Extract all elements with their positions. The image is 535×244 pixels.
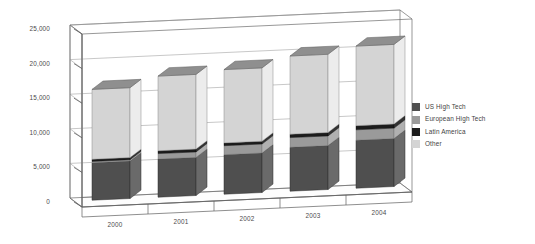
legend-label: European High Tech xyxy=(425,116,486,122)
legend-swatch-icon xyxy=(412,140,420,148)
x-tick-2002: 2002 xyxy=(224,216,270,222)
legend-item-us-high-tech[interactable]: US High Tech xyxy=(412,101,532,113)
x-tick-2003: 2003 xyxy=(290,213,336,219)
legend-swatch-icon xyxy=(412,128,420,136)
legend-swatch-icon xyxy=(412,116,420,124)
legend-label: Latin America xyxy=(425,129,466,135)
legend-label: Other xyxy=(425,141,442,147)
x-tick-2004: 2004 xyxy=(356,210,402,216)
chart-legend: US High Tech European High Tech Latin Am… xyxy=(412,101,532,151)
legend-label: US High Tech xyxy=(425,104,466,110)
x-tick-2001: 2001 xyxy=(158,219,204,225)
legend-swatch-icon xyxy=(412,103,420,111)
legend-item-european-high-tech[interactable]: European High Tech xyxy=(412,113,532,125)
chart-container: 25,000 20,000 15,000 10,000 5,000 0 2000… xyxy=(0,0,535,244)
legend-item-other[interactable]: Other xyxy=(412,138,532,150)
legend-item-latin-america[interactable]: Latin America xyxy=(412,126,532,138)
x-tick-2000: 2000 xyxy=(92,222,138,228)
